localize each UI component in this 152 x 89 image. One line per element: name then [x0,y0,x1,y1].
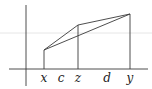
convexity-diagram: x c z d y [0,0,152,89]
label-x: x [41,71,48,85]
chord-x-to-y [44,14,130,50]
segment-z-to-y [78,14,130,25]
label-y: y [126,71,134,85]
label-d: d [103,71,111,85]
label-z: z [74,71,82,85]
label-c: c [58,71,65,85]
